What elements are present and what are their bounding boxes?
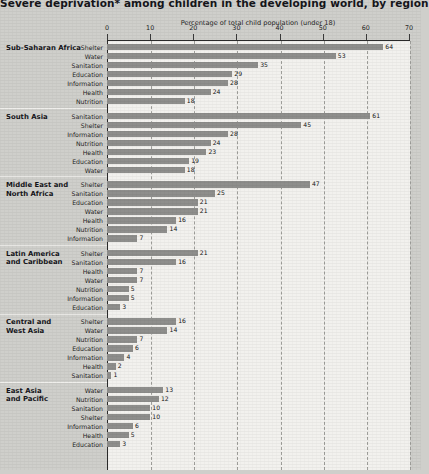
bar-shelter — [107, 181, 310, 187]
row-label-information: Information — [0, 130, 103, 139]
bar-education — [107, 158, 189, 164]
bar-shelter — [107, 122, 301, 128]
x-tick-50 — [323, 34, 324, 40]
bar-health — [107, 363, 116, 369]
chart-row: Nutrition24 — [0, 139, 421, 148]
bar-sanitation — [107, 62, 258, 68]
x-tick-label-0: 0 — [105, 24, 109, 32]
bar-value-sanitation: 35 — [260, 61, 268, 70]
chart-row: Water14 — [0, 326, 421, 335]
row-label-education: Education — [0, 440, 103, 449]
row-label-nutrition: Nutrition — [0, 335, 103, 344]
chart-row: Water21 — [0, 207, 421, 216]
row-label-education: Education — [0, 198, 103, 207]
row-label-information: Information — [0, 79, 103, 88]
page-bottom-edge — [0, 470, 421, 474]
bar-value-education: 19 — [191, 157, 199, 166]
bar-value-sanitation: 16 — [178, 258, 186, 267]
bar-value-nutrition: 14 — [170, 225, 178, 234]
row-label-water: Water — [0, 386, 103, 395]
bar-information — [107, 423, 133, 429]
bar-nutrition — [107, 336, 137, 342]
bar-value-education: 29 — [234, 70, 242, 79]
bar-nutrition — [107, 140, 211, 146]
row-label-nutrition: Nutrition — [0, 225, 103, 234]
bar-sanitation — [107, 113, 370, 119]
group-separator — [0, 382, 107, 383]
group-separator — [0, 108, 107, 109]
bar-value-health: 24 — [213, 88, 221, 97]
row-label-shelter: Shelter — [0, 413, 103, 422]
bar-water — [107, 277, 137, 283]
chart-row: Information7 — [0, 234, 421, 243]
bar-nutrition — [107, 286, 129, 292]
row-label-nutrition: Nutrition — [0, 97, 103, 106]
row-label-sanitation: Sanitation — [0, 404, 103, 413]
bar-value-health: 7 — [139, 267, 143, 276]
bar-value-sanitation: 10 — [152, 404, 160, 413]
chart-row: Sanitation61 — [0, 112, 421, 121]
bar-value-information: 28 — [230, 79, 238, 88]
row-label-information: Information — [0, 422, 103, 431]
bar-value-water: 14 — [170, 326, 178, 335]
bar-value-shelter: 16 — [178, 317, 186, 326]
chart-row: Shelter45 — [0, 121, 421, 130]
chart-row: Information28 — [0, 79, 421, 88]
bar-value-information: 7 — [139, 234, 143, 243]
row-label-sanitation: Sanitation — [0, 189, 103, 198]
row-label-sanitation: Sanitation — [0, 258, 103, 267]
chart-row: Shelter21 — [0, 249, 421, 258]
bar-nutrition — [107, 98, 185, 104]
chart-row: Health24 — [0, 88, 421, 97]
chart-row: Nutrition7 — [0, 335, 421, 344]
bar-value-information: 6 — [135, 422, 139, 431]
chart-row: Sanitation10 — [0, 404, 421, 413]
bar-information — [107, 354, 124, 360]
bar-water — [107, 53, 336, 59]
row-label-sanitation: Sanitation — [0, 112, 103, 121]
row-label-health: Health — [0, 148, 103, 157]
x-tick-20 — [193, 34, 194, 40]
bar-water — [107, 167, 185, 173]
bar-value-water: 7 — [139, 276, 143, 285]
row-label-health: Health — [0, 216, 103, 225]
bar-health — [107, 217, 176, 223]
chart-row: Water53 — [0, 52, 421, 61]
chart-row: Information6 — [0, 422, 421, 431]
row-label-health: Health — [0, 88, 103, 97]
chart-row: Shelter47 — [0, 180, 421, 189]
bar-sanitation — [107, 190, 215, 196]
chart-row: Information4 — [0, 353, 421, 362]
chart-row: Education21 — [0, 198, 421, 207]
chart-row: Education29 — [0, 70, 421, 79]
row-label-water: Water — [0, 326, 103, 335]
bar-value-information: 5 — [131, 294, 135, 303]
chart-row: Sanitation1 — [0, 371, 421, 380]
bar-value-education: 21 — [200, 198, 208, 207]
chart-row: Sanitation35 — [0, 61, 421, 70]
bar-nutrition — [107, 226, 167, 232]
row-label-shelter: Shelter — [0, 317, 103, 326]
chart-row: Sanitation16 — [0, 258, 421, 267]
chart-row: Nutrition14 — [0, 225, 421, 234]
chart-row: Education3 — [0, 440, 421, 449]
chart-row: Water18 — [0, 166, 421, 175]
x-tick-label-40: 40 — [275, 24, 283, 32]
x-tick-label-30: 30 — [232, 24, 240, 32]
bar-water — [107, 387, 163, 393]
x-tick-30 — [236, 34, 237, 40]
row-label-shelter: Shelter — [0, 180, 103, 189]
group-separator — [0, 176, 107, 177]
row-label-water: Water — [0, 207, 103, 216]
bar-value-health: 23 — [208, 148, 216, 157]
chart-row: Health5 — [0, 431, 421, 440]
bar-education — [107, 441, 120, 447]
bar-shelter — [107, 414, 150, 420]
chart-row: Water13 — [0, 386, 421, 395]
chart-row: Health7 — [0, 267, 421, 276]
row-label-information: Information — [0, 234, 103, 243]
row-label-information: Information — [0, 353, 103, 362]
bar-information — [107, 131, 228, 137]
group-separator — [0, 245, 107, 246]
chart-row: Nutrition5 — [0, 285, 421, 294]
